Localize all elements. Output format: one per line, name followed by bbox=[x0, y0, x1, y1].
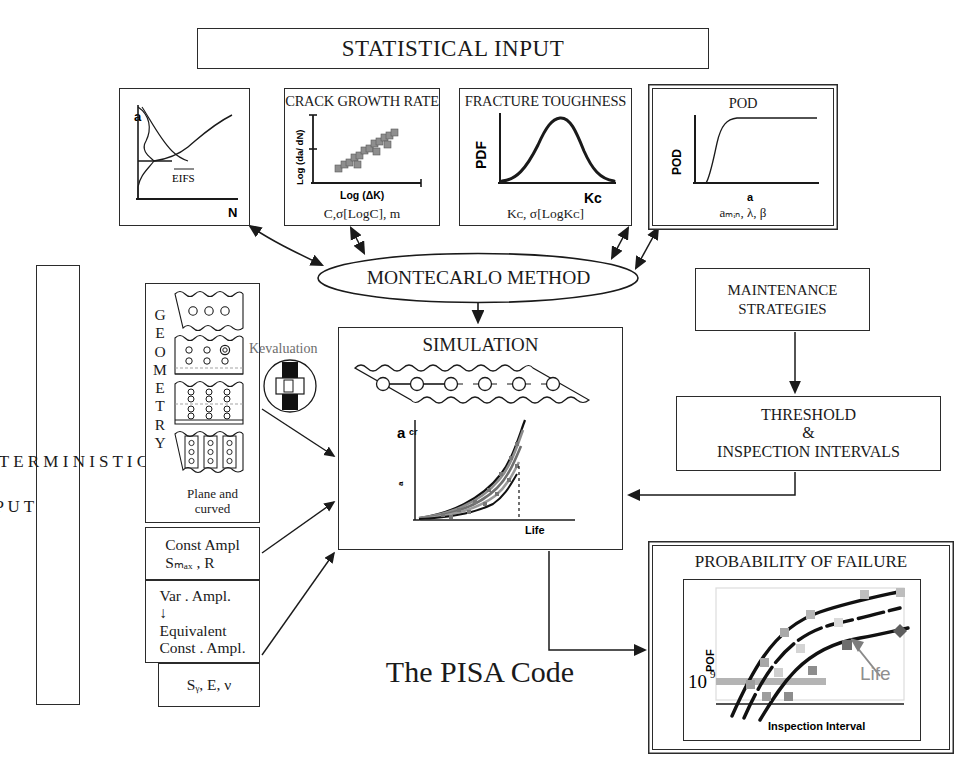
kevaluation-label: Kevaluation bbox=[249, 341, 317, 357]
statistical-input-header: STATISTICAL INPUT bbox=[197, 28, 709, 69]
load-box-var-ampl: Var . Ampl. ↓ Equivalent Const . Ampl. bbox=[145, 580, 260, 663]
crack-growth-rate-chart: Log (da/ dN) bbox=[285, 107, 437, 207]
eifs-xlabel: N bbox=[228, 205, 237, 220]
simulation-xlabel: Life bbox=[525, 524, 545, 536]
fracture-toughness-caption: Kᴄ, σ[LogKᴄ] bbox=[460, 206, 631, 222]
simulation-panel: SIMULATION a cr a bbox=[338, 327, 623, 550]
kevaluation-icon bbox=[262, 358, 318, 414]
pod-ylabel: POD bbox=[670, 149, 684, 175]
svg-text:9: 9 bbox=[710, 668, 716, 680]
diagram-canvas: STATISTICAL INPUT a EIFS N CRACK GROWTH … bbox=[0, 0, 965, 764]
geometry-specimens bbox=[171, 288, 257, 478]
panel-fracture-toughness: FRACTURE TOUGHNESS PDF Kc Kᴄ, σ[LogKᴄ] bbox=[459, 88, 632, 226]
load-box-material-props: Sᵧ, E, ν bbox=[158, 663, 260, 707]
deterministic-input-panel: D E T E R M I N I S T I C I N P U T bbox=[36, 265, 80, 705]
geometry-panel: GEOM ETRY bbox=[145, 283, 260, 523]
pof-annotation: Life bbox=[860, 663, 891, 684]
simulation-specimen bbox=[351, 360, 593, 410]
simulation-title: SIMULATION bbox=[339, 334, 622, 356]
var-ampl-label: Var . Ampl. ↓ Equivalent Const . Ampl. bbox=[146, 581, 259, 662]
eifs-annotation: EIFS bbox=[172, 172, 195, 184]
panel-crack-growth-rate: CRACK GROWTH RATE Log (da/ dN) bbox=[284, 88, 440, 226]
const-ampl-label: Const Ampl Sₘₐₓ , R bbox=[146, 528, 259, 579]
fracture-toughness-chart: PDF Kc bbox=[460, 107, 629, 207]
crack-growth-rate-caption: C,σ[LogC], m bbox=[285, 206, 439, 222]
load-box-const-ampl: Const Ampl Sₘₐₓ , R bbox=[145, 527, 260, 580]
simulation-growth-chart: a cr a Life bbox=[389, 416, 589, 538]
fracture-toughness-ylabel: PDF bbox=[473, 141, 489, 169]
montecarlo-ellipse: MONTECARLO METHOD bbox=[316, 252, 641, 304]
simulation-ylabel-critical: a bbox=[397, 424, 406, 441]
pod-chart: POD a bbox=[653, 111, 831, 207]
panel-eifs: a EIFS N bbox=[119, 88, 250, 226]
panel-pod: POD POD a aₘᵢₙ, λ, β bbox=[652, 88, 834, 226]
pod-xlabel: a bbox=[747, 191, 754, 203]
threshold-label: THRESHOLD & INSPECTION INTERVALS bbox=[717, 406, 900, 461]
pof-title: PROBABILITY OF FAILURE bbox=[653, 552, 949, 572]
fem-mesh-icon bbox=[262, 358, 318, 414]
crack-growth-rate-xlabel: Log (ΔK) bbox=[340, 189, 384, 201]
threshold-box: THRESHOLD & INSPECTION INTERVALS bbox=[676, 396, 941, 471]
material-props-label: Sᵧ, E, ν bbox=[159, 664, 259, 706]
maintenance-strategies-box: MAINTENANCE STRATEGIES bbox=[695, 268, 870, 331]
eifs-chart: a EIFS N bbox=[120, 89, 247, 223]
crack-growth-rate-ylabel: Log (da/ dN) bbox=[294, 130, 305, 185]
probability-of-failure-panel: PROBABILITY OF FAILURE POF 10 9 bbox=[652, 545, 950, 750]
maintenance-label: MAINTENANCE STRATEGIES bbox=[728, 281, 838, 318]
montecarlo-label: MONTECARLO METHOD bbox=[316, 252, 641, 304]
pisa-code-label: The PISA Code bbox=[335, 655, 625, 689]
pof-threshold-label: 10 bbox=[688, 671, 707, 692]
statistical-input-title: STATISTICAL INPUT bbox=[342, 36, 564, 62]
geometry-label: GEOM ETRY bbox=[150, 306, 170, 452]
fracture-toughness-xlabel: Kc bbox=[584, 190, 602, 206]
pof-xlabel: Inspection Interval bbox=[768, 720, 865, 732]
simulation-ylabel: a bbox=[396, 481, 405, 486]
pof-chart: POF 10 9 bbox=[684, 580, 918, 738]
pof-chart-frame: POF 10 9 bbox=[683, 579, 921, 741]
svg-text:cr: cr bbox=[409, 427, 418, 437]
pod-caption: aₘᵢₙ, λ, β bbox=[653, 205, 833, 221]
geometry-caption: Plane and curved bbox=[168, 487, 257, 516]
pod-title: POD bbox=[653, 95, 833, 112]
deterministic-input-label: D E T E R M I N I S T I C I N P U T bbox=[37, 266, 79, 704]
